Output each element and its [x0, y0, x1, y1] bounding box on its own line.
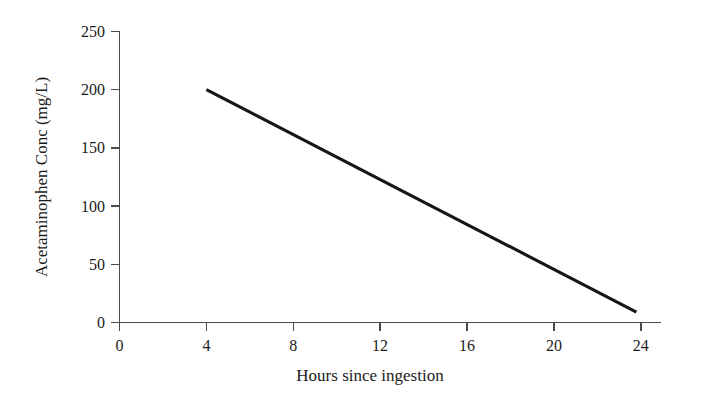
- x-tick-label-0: 0: [116, 337, 124, 354]
- y-tick-label-0: 0: [97, 314, 105, 331]
- line-chart-canvas: 250 200 150 100 50 0 0 4 8 12 16 20 24: [0, 0, 717, 405]
- y-axis-ticks: [111, 32, 120, 323]
- data-series-line: [206, 90, 636, 312]
- x-axis-ticks: [120, 323, 641, 332]
- y-axis-tick-labels: 250 200 150 100 50 0: [81, 23, 105, 331]
- x-axis-title: Hours since ingestion: [296, 366, 444, 385]
- x-tick-label-4: 4: [202, 337, 210, 354]
- x-tick-label-12: 12: [372, 337, 388, 354]
- x-axis-tick-labels: 0 4 8 12 16 20 24: [116, 337, 649, 354]
- y-axis-title: Acetaminophen Conc (mg/L): [32, 77, 51, 277]
- y-tick-label-50: 50: [89, 256, 105, 273]
- y-tick-label-100: 100: [81, 198, 105, 215]
- y-tick-label-150: 150: [81, 139, 105, 156]
- x-tick-label-8: 8: [289, 337, 297, 354]
- y-tick-label-250: 250: [81, 23, 105, 40]
- x-tick-label-24: 24: [633, 337, 649, 354]
- x-tick-label-20: 20: [546, 337, 562, 354]
- x-tick-label-16: 16: [459, 337, 475, 354]
- y-tick-label-200: 200: [81, 81, 105, 98]
- chart-figure: 250 200 150 100 50 0 0 4 8 12 16 20 24: [0, 0, 717, 405]
